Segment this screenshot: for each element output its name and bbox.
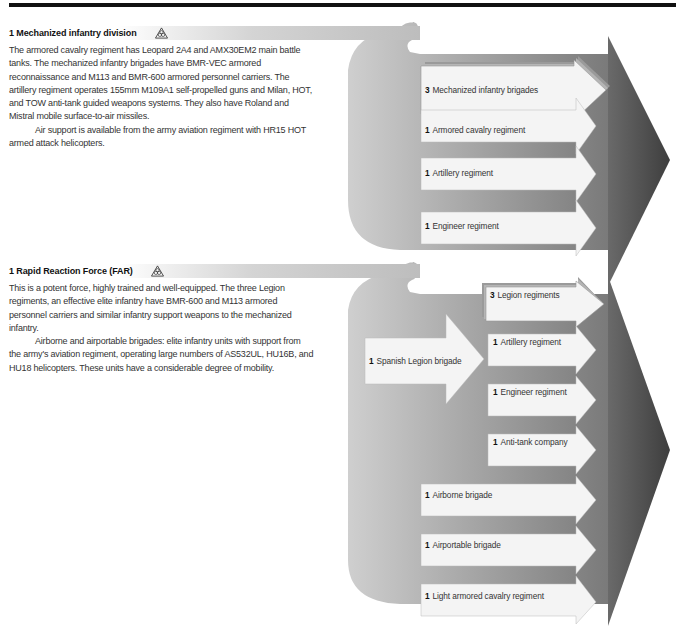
unit-label: 1Airportable brigade (425, 540, 501, 550)
section-header-rapid-reaction-force: 1 Rapid Reaction Force (FAR) (0, 264, 420, 278)
unit-label: 3Mechanized infantry brigades (425, 85, 538, 95)
nbc-trefoil-triangle-icon (155, 27, 168, 39)
paragraph: The armored cavalry regiment has Leopard… (9, 44, 314, 124)
section-description: This is a potent force, highly trained a… (9, 282, 314, 375)
unit-label: 1Airborne brigade (425, 490, 492, 500)
unit-label: 1Armored cavalry regiment (425, 125, 525, 135)
section-title: 1 Mechanized infantry division (9, 28, 137, 38)
big-arrow-2 (608, 276, 670, 626)
unit-label-spanish-legion: 1Spanish Legion brigade (369, 356, 462, 366)
paragraph: Airborne and airportable brigades: elite… (9, 335, 314, 375)
section-title: 1 Rapid Reaction Force (FAR) (9, 266, 133, 276)
unit-label: 1Artillery regiment (493, 337, 561, 347)
section-description: The armored cavalry regiment has Leopard… (9, 44, 314, 150)
section-1-diagram (348, 22, 670, 286)
unit-label: 1Engineer regiment (493, 387, 567, 397)
section-header-mechanized-division: 1 Mechanized infantry division (0, 26, 420, 40)
unit-label: 1Engineer regiment (425, 221, 499, 231)
paragraph: This is a potent force, highly trained a… (9, 282, 314, 335)
unit-label: 1Anti-tank company (493, 437, 568, 447)
unit-label: 3Legion regiments (490, 290, 560, 300)
paragraph: Air support is available from the army a… (9, 124, 314, 151)
unit-label: 1Artillery regiment (425, 168, 493, 178)
big-arrow-1 (608, 36, 670, 286)
nbc-trefoil-triangle-icon (151, 265, 164, 277)
unit-label: 1Light armored cavalry regiment (425, 591, 544, 601)
